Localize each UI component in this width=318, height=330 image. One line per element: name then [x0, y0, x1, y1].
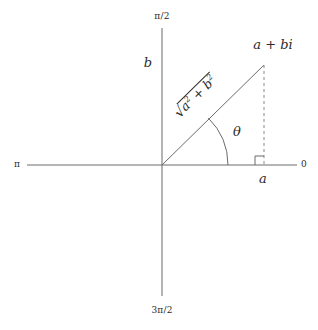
figure-canvas: π/2 3π/2 π 0 b a θ a + bi √a2 + b2 [0, 0, 318, 330]
point-label-imag-part: bi [280, 37, 292, 52]
angle-theta-label: θ [233, 125, 241, 138]
angle-arc [208, 118, 228, 165]
real-component-label: a [259, 172, 267, 185]
axis-label-zero: 0 [301, 160, 307, 169]
point-label-plus: + [261, 37, 280, 52]
axis-label-pi-over-two: π/2 [154, 12, 169, 21]
right-angle-marker-icon [255, 156, 264, 165]
point-label: a + bi [253, 38, 292, 51]
point-label-real-part: a [253, 37, 261, 52]
imaginary-component-label: b [144, 56, 152, 69]
axis-label-pi: π [14, 160, 20, 169]
axis-label-three-pi-over-two: 3π/2 [151, 306, 172, 315]
